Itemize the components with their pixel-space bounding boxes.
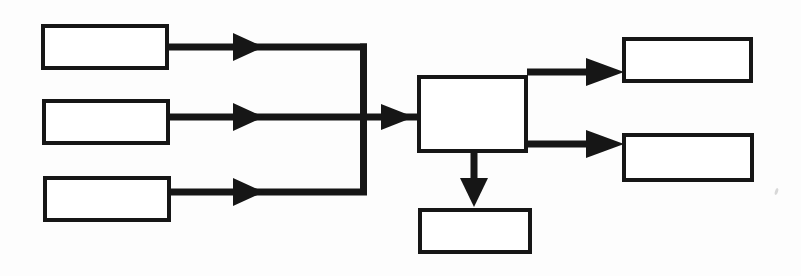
node-input-3[interactable] (43, 176, 171, 222)
connector-process-to-output-below (460, 152, 488, 207)
connector-process-to-output-bottom (527, 130, 624, 158)
connector-input-2-to-process (169, 103, 417, 131)
node-input-1[interactable] (41, 24, 169, 70)
node-output-below[interactable] (418, 208, 532, 254)
connector-input-3-to-process (169, 178, 367, 206)
node-output-bottom[interactable] (622, 133, 754, 182)
connector-input-1-to-process (168, 33, 367, 61)
flowchart-diagram (0, 0, 801, 276)
connector-process-to-output-top (527, 58, 624, 86)
node-input-2[interactable] (42, 99, 170, 145)
node-process-central[interactable] (417, 75, 528, 153)
node-output-top[interactable] (622, 37, 753, 83)
